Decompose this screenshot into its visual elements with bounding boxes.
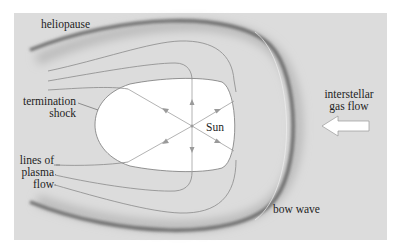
termination-shock-label-line2: shock — [20, 107, 76, 119]
interstellar-label-line1: interstellar — [318, 88, 380, 100]
diagram-canvas — [0, 0, 399, 249]
interstellar-label-line2: gas flow — [318, 100, 380, 112]
sun-marker — [191, 125, 194, 128]
plasma-label-line3: flow — [10, 178, 54, 190]
bow-wave-label: bow wave — [273, 203, 320, 215]
termination-shock-label: termination shock — [20, 95, 76, 119]
plasma-label-line2: plasma — [10, 166, 54, 178]
termination-shock-label-line1: termination — [20, 95, 76, 107]
plasma-label-line1: lines of — [10, 154, 54, 166]
plasma-flow-label: lines of plasma flow — [10, 154, 54, 190]
heliopause-label: heliopause — [41, 18, 90, 30]
sun-label: Sun — [206, 121, 224, 133]
interstellar-gas-flow-label: interstellar gas flow — [318, 88, 380, 112]
